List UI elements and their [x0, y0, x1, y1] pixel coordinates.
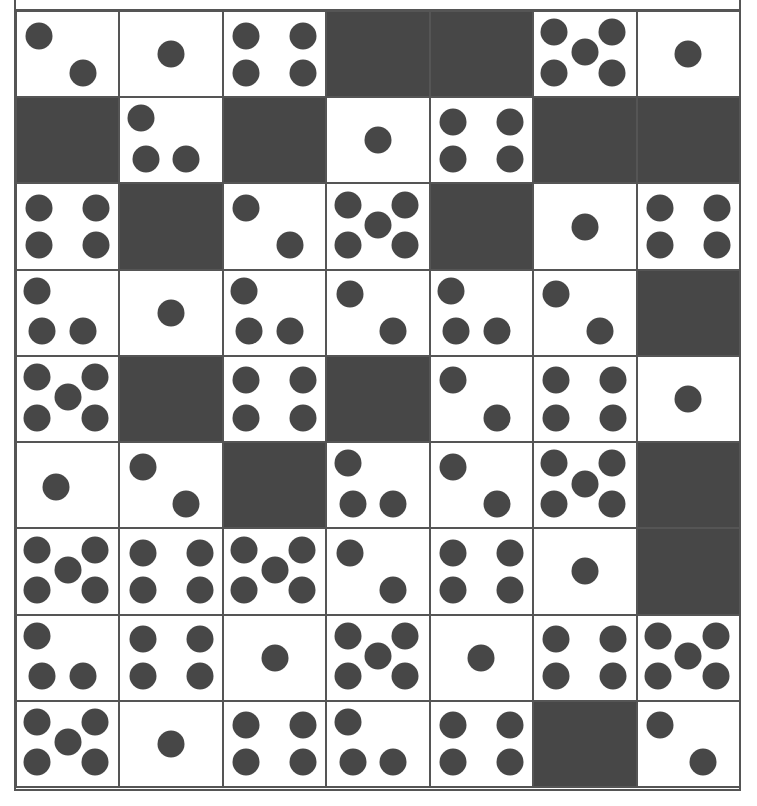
pip-icon	[690, 749, 717, 776]
pip-icon	[571, 213, 598, 240]
die-face-5[interactable]	[17, 702, 118, 786]
pip-icon	[543, 404, 570, 431]
pip-icon	[440, 453, 467, 480]
pip-icon	[646, 232, 673, 259]
die-face-1[interactable]	[534, 529, 635, 613]
pip-icon	[364, 211, 391, 238]
die-face-5[interactable]	[224, 529, 325, 613]
die-face-3[interactable]	[17, 616, 118, 700]
die-face-2[interactable]	[431, 443, 532, 527]
die-face-4[interactable]	[638, 184, 739, 268]
die-face-4[interactable]	[224, 12, 325, 96]
pip-icon	[276, 318, 303, 345]
die-face-1[interactable]	[638, 357, 739, 441]
die-face-4[interactable]	[120, 616, 221, 700]
die-face-2[interactable]	[327, 529, 428, 613]
die-face-1[interactable]	[327, 98, 428, 182]
die-face-1[interactable]	[534, 184, 635, 268]
pip-icon	[82, 576, 109, 603]
die-face-1[interactable]	[120, 12, 221, 96]
dark-block[interactable]	[534, 702, 635, 786]
dark-block[interactable]	[431, 12, 532, 96]
pip-icon	[703, 232, 730, 259]
die-face-1[interactable]	[431, 616, 532, 700]
dark-block[interactable]	[638, 529, 739, 613]
dark-block[interactable]	[327, 12, 428, 96]
dark-block[interactable]	[120, 357, 221, 441]
die-face-4[interactable]	[224, 702, 325, 786]
pip-icon	[26, 22, 53, 49]
pip-icon	[339, 490, 366, 517]
pip-icon	[289, 22, 316, 49]
pip-icon	[336, 281, 363, 308]
die-face-2[interactable]	[224, 184, 325, 268]
pip-icon	[541, 59, 568, 86]
die-face-1[interactable]	[120, 702, 221, 786]
pip-icon	[158, 730, 185, 757]
dark-block[interactable]	[224, 98, 325, 182]
pip-icon	[496, 576, 523, 603]
dark-block[interactable]	[431, 184, 532, 268]
pip-icon	[158, 41, 185, 68]
die-face-5[interactable]	[534, 443, 635, 527]
die-face-2[interactable]	[120, 443, 221, 527]
pip-icon	[29, 318, 56, 345]
die-face-5[interactable]	[638, 616, 739, 700]
die-face-5[interactable]	[534, 12, 635, 96]
dark-block[interactable]	[327, 357, 428, 441]
die-face-4[interactable]	[431, 98, 532, 182]
die-face-2[interactable]	[327, 271, 428, 355]
die-face-2[interactable]	[638, 702, 739, 786]
dark-block[interactable]	[224, 443, 325, 527]
die-face-4[interactable]	[534, 616, 635, 700]
dark-block[interactable]	[638, 271, 739, 355]
die-face-4[interactable]	[534, 357, 635, 441]
die-face-3[interactable]	[327, 443, 428, 527]
die-face-1[interactable]	[120, 271, 221, 355]
die-face-5[interactable]	[327, 184, 428, 268]
die-face-4[interactable]	[17, 184, 118, 268]
pip-icon	[186, 576, 213, 603]
die-face-5[interactable]	[17, 357, 118, 441]
dark-block[interactable]	[17, 98, 118, 182]
pip-icon	[541, 490, 568, 517]
die-face-3[interactable]	[431, 271, 532, 355]
pip-icon	[571, 558, 598, 585]
dice-grid	[15, 10, 741, 788]
pip-icon	[380, 490, 407, 517]
die-face-1[interactable]	[638, 12, 739, 96]
pip-icon	[644, 663, 671, 690]
die-face-3[interactable]	[224, 271, 325, 355]
die-face-2[interactable]	[534, 271, 635, 355]
pip-icon	[543, 281, 570, 308]
dark-block[interactable]	[638, 443, 739, 527]
pip-icon	[334, 450, 361, 477]
pip-icon	[24, 622, 51, 649]
die-face-4[interactable]	[431, 702, 532, 786]
pip-icon	[392, 622, 419, 649]
die-face-3[interactable]	[17, 271, 118, 355]
dark-block[interactable]	[120, 184, 221, 268]
die-face-4[interactable]	[224, 357, 325, 441]
die-face-2[interactable]	[17, 12, 118, 96]
pip-icon	[440, 749, 467, 776]
die-face-2[interactable]	[431, 357, 532, 441]
die-face-1[interactable]	[17, 443, 118, 527]
pip-icon	[675, 642, 702, 669]
die-face-4[interactable]	[431, 529, 532, 613]
die-face-5[interactable]	[327, 616, 428, 700]
die-face-4[interactable]	[120, 529, 221, 613]
pip-icon	[127, 105, 154, 132]
die-face-3[interactable]	[120, 98, 221, 182]
dark-block[interactable]	[534, 98, 635, 182]
die-face-5[interactable]	[17, 529, 118, 613]
pip-icon	[82, 708, 109, 735]
pip-icon	[646, 195, 673, 222]
dark-block[interactable]	[638, 98, 739, 182]
die-face-3[interactable]	[327, 702, 428, 786]
pip-icon	[496, 539, 523, 566]
pip-icon	[702, 663, 729, 690]
die-face-1[interactable]	[224, 616, 325, 700]
pip-icon	[496, 145, 523, 172]
pip-icon	[443, 318, 470, 345]
